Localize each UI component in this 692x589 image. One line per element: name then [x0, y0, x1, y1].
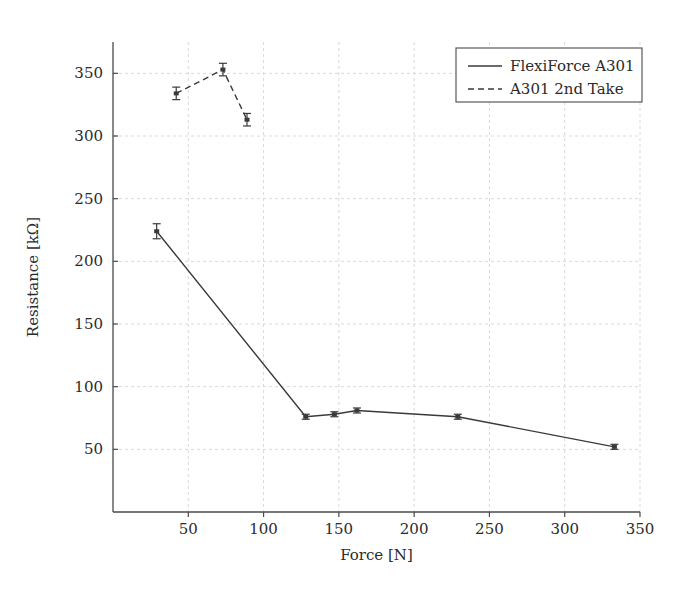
data-point-marker: [220, 68, 225, 72]
chart-legend: FlexiForce A301A301 2nd Take: [456, 48, 642, 102]
y-tick-label: 100: [74, 378, 103, 396]
series-line: [176, 70, 247, 120]
x-tick-label: 150: [325, 520, 354, 538]
data-point-marker: [303, 415, 308, 419]
y-tick-label: 350: [74, 64, 103, 82]
series-line: [157, 231, 615, 447]
data-point-marker: [245, 118, 250, 122]
x-axis-title: Force [N]: [340, 546, 413, 564]
data-point-marker: [174, 91, 179, 95]
chart-figure: 50100150200250300350 5010015020025030035…: [0, 0, 692, 589]
y-tick-label: 150: [74, 315, 103, 333]
y-tick-label: 200: [74, 252, 103, 270]
x-tick-label: 50: [179, 520, 198, 538]
x-tick-label: 100: [249, 520, 278, 538]
grid-lines: [113, 42, 640, 512]
legend-label-1: FlexiForce A301: [510, 57, 635, 75]
y-axis-title: Resistance [kΩ]: [24, 217, 42, 337]
data-point-marker: [455, 415, 460, 419]
data-point-marker: [332, 412, 337, 416]
x-tick-label: 300: [550, 520, 579, 538]
data-point-marker: [154, 229, 159, 233]
data-point-marker: [612, 445, 617, 449]
y-tick-label: 50: [84, 440, 103, 458]
axis-frame: [113, 42, 640, 512]
y-tick-label: 300: [74, 127, 103, 145]
data-series: [153, 63, 619, 449]
y-tick-label: 250: [74, 190, 103, 208]
x-tick-label: 200: [400, 520, 429, 538]
x-tick-label: 350: [626, 520, 655, 538]
x-tick-label: 250: [475, 520, 504, 538]
data-point-marker: [354, 408, 359, 412]
x-axis-ticks: 50100150200250300350: [179, 512, 655, 538]
legend-label-2: A301 2nd Take: [509, 80, 624, 98]
y-axis-ticks: 50100150200250300350: [74, 64, 118, 458]
series-2: [172, 63, 251, 126]
series-1: [153, 224, 619, 450]
resistance-vs-force-chart: 50100150200250300350 5010015020025030035…: [0, 0, 692, 589]
